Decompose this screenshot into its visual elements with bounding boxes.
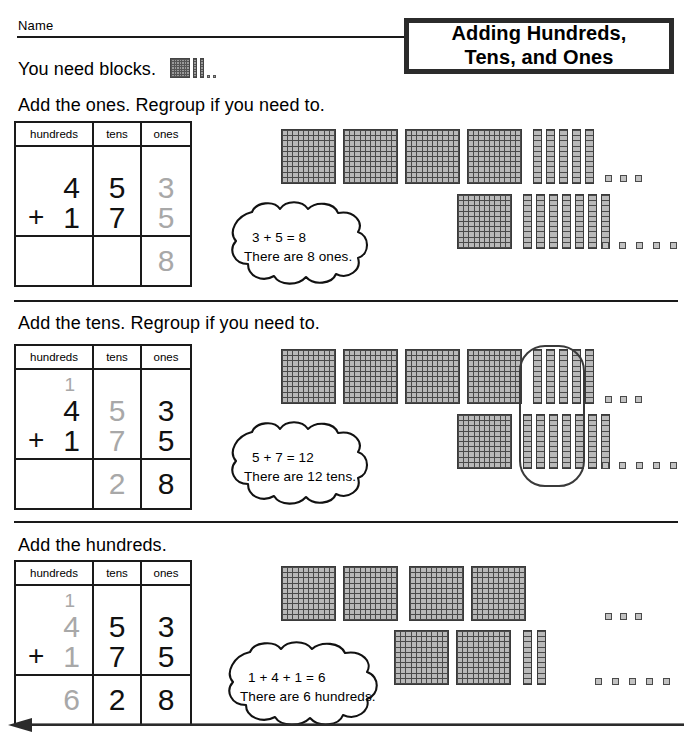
worksheet-title-box: Adding Hundreds, Tens, and Ones	[404, 18, 674, 74]
column-header-hundreds: hundreds	[16, 346, 94, 368]
name-label: Name	[18, 18, 53, 33]
cell-tens-addends: 5 7	[94, 370, 142, 458]
addend1-ones: 3	[142, 396, 190, 426]
materials-label: You need blocks.	[18, 59, 156, 80]
cell-tens-sum[interactable]	[94, 237, 142, 285]
block-cubes-addend1-tens	[605, 396, 642, 403]
cell-ones-addends: 3 5	[142, 586, 190, 674]
ten-rod-block	[536, 194, 545, 249]
one-cube-block	[619, 462, 626, 469]
sum-tens: 2	[94, 685, 140, 715]
cloud-statement-hundreds: There are 6 hundreds.	[218, 687, 398, 707]
ten-rod-block	[575, 194, 584, 249]
one-cube-block	[636, 462, 643, 469]
materials-icons	[170, 58, 216, 80]
cell-tens-sum[interactable]: 2	[94, 676, 142, 724]
table-header-row: hundreds tens ones	[16, 346, 190, 370]
ten-rod-block	[562, 194, 571, 249]
hundred-flat-block	[343, 129, 398, 184]
one-cube-block	[670, 242, 677, 249]
addend2-ones: 5	[142, 642, 190, 672]
addend1-hundreds: 4	[63, 612, 80, 642]
ten-rod-block	[546, 349, 555, 404]
hundred-flat-block	[343, 349, 398, 404]
operator-symbol: +	[28, 203, 44, 231]
sum-ones: 8	[142, 685, 190, 715]
addend1-hundreds: 4	[63, 173, 80, 203]
section-heading-hundreds: Add the hundreds.	[18, 535, 167, 556]
one-cube-block	[602, 462, 609, 469]
column-header-ones: ones	[142, 123, 190, 145]
hundred-flat-block	[281, 566, 336, 621]
column-header-tens: tens	[94, 562, 142, 584]
carry-digit-hundreds-section: 1	[64, 591, 75, 610]
ten-rod-block	[585, 129, 594, 184]
cell-hundreds-sum[interactable]: 6	[16, 676, 94, 724]
place-value-table-tens[interactable]: hundreds tens ones 1 4 + 1 5 7 3 5 2 8	[14, 344, 192, 510]
ten-rod-block	[537, 630, 546, 685]
table-header-row: hundreds tens ones	[16, 123, 190, 147]
hundred-flat-block	[405, 129, 460, 184]
block-cubes-addend2-tens	[602, 462, 677, 469]
table-sum-row: 6 2 8	[16, 674, 190, 724]
hundred-flat-block	[394, 630, 449, 685]
one-cube-block	[663, 678, 670, 685]
thought-cloud-ones: 3 + 5 = 8 There are 8 ones.	[222, 198, 387, 288]
ten-rod-block	[536, 414, 545, 469]
addend2-tens: 7	[94, 426, 140, 456]
hundred-flat-block	[343, 566, 398, 621]
cell-hundreds-sum[interactable]	[16, 460, 94, 508]
addend1-ones: 3	[142, 612, 190, 642]
one-cube-block	[635, 396, 642, 403]
cloud-statement-tens: There are 12 tens.	[222, 467, 387, 487]
one-cube-block	[620, 396, 627, 403]
column-header-tens: tens	[94, 346, 142, 368]
place-value-table-hundreds[interactable]: hundreds tens ones 1 4 + 1 5 7 3 5 6 2 8	[14, 560, 192, 726]
addend1-tens: 5	[94, 612, 140, 642]
one-cube-block	[620, 175, 627, 182]
ten-rod-block	[523, 630, 532, 685]
ten-rod-block	[588, 414, 597, 469]
block-cubes-addend1-hundreds	[605, 613, 642, 620]
hundred-flat-icon	[170, 58, 190, 78]
ten-rod-block	[601, 194, 610, 249]
cell-tens-sum[interactable]: 2	[94, 460, 142, 508]
addend2-hundreds: 1	[63, 203, 80, 233]
section-heading-tens: Add the tens. Regroup if you need to.	[18, 313, 320, 334]
carry-digit-tens-section: 1	[64, 375, 75, 394]
worksheet-title-line-1: Adding Hundreds,	[452, 22, 627, 44]
block-cubes-addend2-ones	[602, 242, 677, 249]
worksheet-title: Adding Hundreds, Tens, and Ones	[452, 22, 627, 69]
ten-rod-block	[572, 129, 581, 184]
ten-rod-block	[523, 414, 532, 469]
ten-rod-block	[559, 349, 568, 404]
name-write-line[interactable]	[17, 36, 407, 38]
cell-ones-sum[interactable]: 8	[142, 676, 190, 724]
ten-rod-block	[533, 349, 542, 404]
cloud-equation-ones: 3 + 5 = 8	[222, 228, 387, 248]
place-value-table-ones[interactable]: hundreds tens ones 4 + 1 5 7 3 5 8	[14, 121, 192, 287]
ten-rod-block	[585, 349, 594, 404]
ten-rod-icon	[200, 58, 204, 78]
sum-tens: 2	[94, 469, 140, 499]
cell-tens-addends: 5 7	[94, 147, 142, 235]
ten-rod-block	[572, 349, 581, 404]
cell-ones-addends: 3 5	[142, 147, 190, 235]
addend2-ones: 5	[142, 203, 190, 233]
sum-ones: 8	[142, 246, 190, 276]
block-row-addend1-hundreds	[281, 566, 526, 621]
section-divider	[14, 521, 678, 523]
ten-rod-icon	[193, 58, 197, 78]
hundred-flat-block	[457, 414, 512, 469]
table-addend-rows: 1 4 + 1 5 7 3 5	[16, 586, 190, 674]
one-cube-block	[636, 242, 643, 249]
cell-hundreds-sum[interactable]	[16, 237, 94, 285]
hundred-flat-block	[409, 566, 464, 621]
addend1-tens: 5	[94, 173, 140, 203]
cell-ones-sum[interactable]: 8	[142, 460, 190, 508]
cell-ones-sum[interactable]: 8	[142, 237, 190, 285]
section-heading-ones: Add the ones. Regroup if you need to.	[18, 95, 325, 116]
one-cube-block	[612, 678, 619, 685]
ten-rod-block	[546, 129, 555, 184]
section-divider	[14, 300, 678, 302]
